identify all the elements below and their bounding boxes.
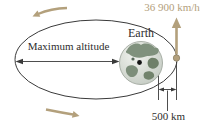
earth-globe-icon bbox=[120, 42, 163, 85]
orbit-direction-top-icon bbox=[33, 8, 68, 17]
satellite-dot-icon bbox=[173, 55, 179, 61]
earth-label: Earth bbox=[120, 27, 162, 40]
orbit-diagram: 36 900 km/h Earth Maximum altitude 500 k… bbox=[0, 0, 206, 131]
perigee-altitude-label: 500 km bbox=[146, 111, 191, 123]
speed-label: 36 900 km/h bbox=[139, 2, 205, 14]
velocity-arrow-icon bbox=[172, 18, 181, 55]
max-altitude-arrow bbox=[16, 59, 120, 64]
orbit-focus-dot bbox=[137, 60, 142, 65]
maximum-altitude-label: Maximum altitude bbox=[22, 41, 115, 53]
orbit-direction-bottom-icon bbox=[46, 110, 80, 118]
